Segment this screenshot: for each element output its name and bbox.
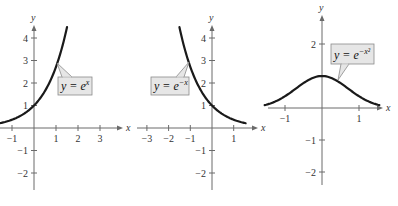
x-tick-label: 3 [98,133,103,144]
y-tick-label: −1 [195,145,206,156]
y-tick-label: −2 [17,168,28,179]
x-axis-arrow-icon [252,126,258,131]
x-axis-arrow-icon [377,106,383,111]
equation-label: y = ex [60,78,90,93]
equation-callout: y = ex [57,63,92,95]
y-axis-arrow-icon [210,25,215,31]
graph-exp-neg: xy−3−2−114321−1−2y = e−x [137,12,266,190]
equation-callout: y = e−x² [331,44,374,80]
y-tick-label: −1 [305,135,316,146]
y-tick-label: −2 [195,168,206,179]
callout-pointer [338,64,349,80]
y-tick-label: −2 [305,167,316,178]
x-tick-label: 1 [54,133,59,144]
y-axis-label: y [318,2,324,13]
x-tick-label: 1 [357,113,362,124]
equation-callout: y = e−x [151,62,189,95]
y-tick-label: −1 [17,145,28,156]
y-axis-arrow-icon [32,25,37,31]
x-tick-label: −2 [163,133,174,144]
exponential-graphs-figure: xy−11234321−1−2y = exxy−3−2−114321−1−2y … [0,0,398,206]
callout-pointer [176,62,189,77]
y-tick-label: 3 [201,55,206,66]
graph-exp: xy−11234321−1−2y = ex [0,12,131,190]
graph-gauss: xy−112−1−2y = e−x² [265,2,391,185]
y-tick-label: 2 [201,78,206,89]
y-axis-arrow-icon [320,15,325,21]
x-tick-label: 2 [76,133,81,144]
y-tick-label: 2 [311,39,316,50]
x-tick-label: −1 [185,133,196,144]
function-curve [179,27,245,123]
y-tick-label: 4 [201,33,206,44]
y-axis-label: y [30,12,36,23]
x-tick-label: 1 [231,133,236,144]
x-axis-label: x [125,122,131,133]
x-tick-label: −1 [280,113,291,124]
x-axis-arrow-icon [117,126,123,131]
y-tick-label: 4 [23,33,28,44]
x-axis-label: x [385,102,391,113]
y-tick-label: 3 [23,55,28,66]
x-tick-label: −3 [142,133,153,144]
x-tick-label: −1 [7,133,18,144]
y-tick-label: 2 [23,78,28,89]
callout-pointer [57,63,72,77]
x-axis-label: x [260,122,266,133]
y-tick-label: 1 [23,100,28,111]
y-axis-label: y [208,12,214,23]
y-tick-label: 1 [201,100,206,111]
